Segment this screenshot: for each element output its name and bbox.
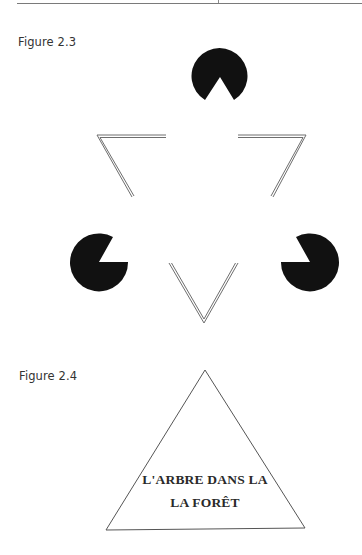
pacman-right	[281, 233, 339, 291]
figure-2-3-kanizsa-triangle: L'ARBRE DANS LA LA FORÊT	[0, 0, 362, 555]
pacman-left	[70, 233, 128, 291]
corner-bottom	[169, 263, 238, 323]
triangle-text-line-2: LA FORÊT	[170, 495, 240, 510]
corner-left	[97, 135, 166, 197]
figure-2-4-label: Figure 2.4	[19, 369, 77, 383]
corner-right	[238, 135, 306, 197]
pacman-top	[192, 48, 248, 100]
triangle-text-line-1: L'ARBRE DANS LA	[142, 472, 267, 487]
